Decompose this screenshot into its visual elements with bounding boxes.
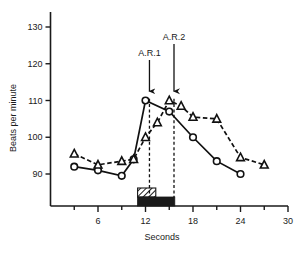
chart-canvas: 90100110120130 612182430 A.R.1A.R.2 Seco… (0, 0, 302, 253)
data-point-triangle (130, 155, 138, 163)
x-axis-title: Seconds (144, 232, 180, 242)
annotations-group: A.R.1A.R.2 (138, 32, 185, 91)
solid-bar (138, 197, 175, 206)
series-markers-group (70, 96, 268, 179)
data-point-triangle (177, 102, 185, 110)
y-axis-title: Beats per minute (8, 84, 18, 152)
y-ticklabel: 120 (27, 59, 42, 69)
hatched-bar (138, 188, 156, 197)
x-ticklabel: 6 (95, 216, 100, 226)
stimulus-bars-group (138, 188, 175, 206)
data-point-triangle (213, 115, 221, 123)
data-point-triangle (165, 96, 173, 104)
data-point-triangle (237, 153, 245, 161)
data-point-triangle (142, 133, 150, 141)
x-ticklabel: 30 (283, 216, 293, 226)
data-point-circle (237, 171, 244, 178)
x-ticklabel: 12 (140, 216, 150, 226)
y-ticklabel: 110 (28, 96, 42, 106)
data-point-triangle (70, 149, 78, 157)
data-point-triangle (94, 161, 102, 169)
data-point-circle (166, 108, 173, 115)
data-point-circle (71, 163, 78, 170)
data-point-circle (142, 97, 149, 104)
heart-rate-chart: 90100110120130 612182430 A.R.1A.R.2 Seco… (0, 0, 302, 253)
x-ticklabel: 18 (188, 216, 198, 226)
x-axis-ticks (74, 206, 288, 212)
data-point-circle (213, 158, 220, 165)
y-ticklabel: 130 (27, 22, 42, 32)
y-ticklabel: 100 (27, 132, 42, 142)
y-axis-ticklabels: 90100110120130 (27, 22, 42, 179)
data-point-triangle (260, 161, 268, 169)
annotation-label-1: A.R.1 (138, 48, 161, 58)
data-point-circle (190, 134, 197, 141)
y-ticklabel: 90 (32, 169, 42, 179)
x-axis-ticklabels: 612182430 (95, 216, 293, 226)
data-point-triangle (153, 118, 161, 126)
data-point-triangle (118, 157, 126, 165)
x-ticklabel: 24 (235, 216, 245, 226)
data-point-circle (118, 173, 125, 180)
annotation-label-2: A.R.2 (163, 32, 186, 42)
